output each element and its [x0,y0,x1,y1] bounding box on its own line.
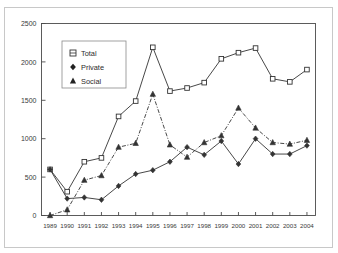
marker-open-square [65,189,70,194]
marker-filled-triangle [270,140,275,145]
marker-open-square [151,45,156,50]
line-chart-plot: 0500100015002000250019891990199119921993… [0,0,338,253]
marker-filled-triangle [219,133,224,138]
marker-open-square [288,80,293,85]
y-tick-label: 500 [25,174,37,181]
x-tick-label: 1998 [197,222,211,229]
marker-filled-triangle [304,137,309,142]
marker-filled-triangle [253,125,258,130]
y-tick-label: 1000 [21,135,37,142]
x-tick-label: 1992 [95,222,109,229]
x-tick-label: 2000 [232,222,246,229]
legend-label-social: Social [81,77,101,86]
x-tick-label: 1996 [163,222,177,229]
legend-label-private: Private [81,63,104,72]
y-tick-label: 1500 [21,97,37,104]
x-tick-label: 2004 [300,222,314,229]
x-tick-label: 2002 [266,222,280,229]
x-tick-label: 1989 [43,222,57,229]
x-tick-label: 1999 [214,222,228,229]
x-tick-label: 1993 [112,222,126,229]
x-tick-label: 1995 [146,222,160,229]
x-tick-label: 1994 [129,222,143,229]
legend: TotalPrivateSocial [62,41,126,88]
marker-filled-triangle [82,177,87,182]
x-tick-label: 2001 [249,222,263,229]
x-tick-label: 1990 [60,222,74,229]
chart-figure: 0500100015002000250019891990199119921993… [0,0,338,253]
marker-filled-diamond [65,196,70,201]
marker-filled-diamond [305,143,310,148]
marker-filled-diamond [133,171,138,176]
marker-open-square [82,159,87,164]
y-tick-label: 2500 [21,20,37,27]
marker-filled-diamond [287,151,292,156]
marker-open-square [116,114,121,119]
series-private [48,136,310,202]
y-tick-label: 2000 [21,59,37,66]
marker-open-square [202,80,207,85]
marker-filled-triangle [150,91,155,96]
marker-filled-diamond [150,167,155,172]
marker-open-square [133,99,138,104]
legend-item-total[interactable]: Total [70,49,97,58]
marker-open-square [253,46,258,51]
marker-filled-triangle [167,142,172,147]
x-tick-label: 1991 [77,222,91,229]
marker-open-square [99,156,104,161]
marker-open-square [270,76,275,81]
marker-filled-diamond [82,195,87,200]
marker-open-square [168,89,173,94]
marker-open-square [219,57,224,62]
marker-filled-triangle [236,105,241,110]
marker-filled-triangle [116,144,121,149]
y-tick-label: 0 [33,212,37,219]
legend-label-total: Total [81,49,97,58]
marker-filled-triangle [133,140,138,145]
series-line-private [50,139,307,200]
x-tick-label: 2003 [283,222,297,229]
marker-open-square [305,67,310,72]
marker-filled-triangle [99,173,104,178]
x-tick-label: 1997 [180,222,194,229]
marker-open-square [185,86,190,91]
marker-open-square [236,50,241,55]
marker-filled-triangle [64,207,69,212]
marker-filled-triangle [184,154,189,159]
